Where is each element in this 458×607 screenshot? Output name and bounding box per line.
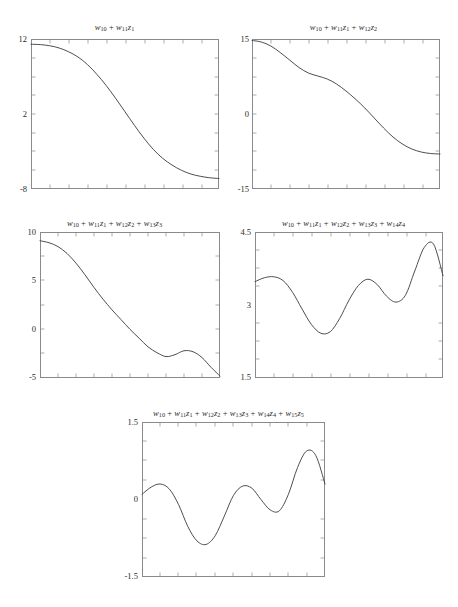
panel-2: w10 + w11z1 + w12z2 15 0 -15 (229, 22, 458, 200)
panel-3-dataline (40, 241, 220, 376)
panel-4: w10 + w11z1 + w12z2 + w13z3 + w14z4 4.5 … (229, 218, 458, 390)
panel-4-dataline (255, 242, 443, 334)
panel-2-curve-svg (229, 22, 458, 200)
multi-panel-figure: w10 + w11z1 12 2 -8 (0, 0, 458, 607)
panel-2-ticks (253, 40, 440, 189)
panel-1: w10 + w11z1 12 2 -8 (0, 22, 229, 200)
panel-1-dataline (31, 44, 219, 178)
panel-3: w10 + w11z1 + w12z2 + w13z3 10 5 0 -5 (0, 218, 229, 390)
panel-4-curve-svg (229, 218, 458, 390)
panel-5-ticks (143, 423, 325, 577)
panel-4-ticks (256, 233, 443, 378)
panel-5: w10 + w11z1 + w12z2 + w13z3 + w14z4 + w1… (114, 408, 343, 588)
panel-3-curve-svg (0, 218, 229, 390)
panel-5-dataline (142, 450, 325, 545)
panel-5-curve-svg (114, 408, 343, 588)
panel-1-curve-svg (0, 22, 229, 200)
panel-2-dataline (252, 41, 440, 155)
panel-1-ticks (32, 40, 219, 189)
